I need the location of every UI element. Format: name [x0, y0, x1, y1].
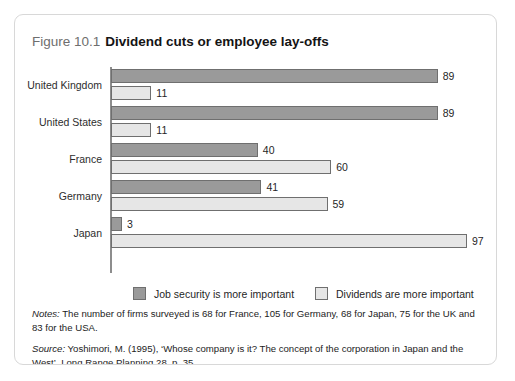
bar-chart: United Kingdom8911United States8911Franc… [15, 61, 497, 283]
category-label: United Kingdom [14, 79, 102, 91]
notes-text: The number of firms surveyed is 68 for F… [32, 308, 475, 333]
legend-swatch-icon [133, 287, 146, 300]
legend-label: Dividends are more important [336, 288, 474, 300]
footnotes: Notes: The number of firms surveyed is 6… [32, 307, 484, 365]
category-label: Japan [14, 227, 102, 239]
notes-label: Notes: [32, 308, 60, 319]
legend-label: Job security is more important [154, 288, 294, 300]
bar-value-label: 11 [156, 123, 167, 137]
bar-job-security [111, 217, 122, 231]
bar-job-security [111, 69, 438, 83]
source-label: Source: [32, 343, 65, 354]
bar-group: United Kingdom8911 [15, 69, 497, 100]
bar-group: United States8911 [15, 106, 497, 137]
bar-dividends [111, 123, 151, 137]
bar-value-label: 40 [263, 143, 275, 157]
category-label: France [14, 153, 102, 165]
bar-value-label: 3 [127, 217, 133, 231]
bar-value-label: 89 [443, 69, 455, 83]
source-line: Source: Yoshimori, M. (1995), ‘Whose com… [32, 342, 484, 365]
bar-job-security [111, 180, 261, 194]
chart-legend: Job security is more importantDividends … [15, 284, 497, 306]
figure-card: Figure 10.1Dividend cuts or employee lay… [14, 14, 497, 365]
bar-value-label: 60 [336, 160, 348, 174]
category-label: Germany [14, 190, 102, 202]
bar-value-label: 11 [156, 86, 167, 100]
bar-group: Japan397 [15, 217, 497, 248]
source-text: Yoshimori, M. (1995), ‘Whose company is … [32, 343, 463, 365]
bar-value-label: 59 [333, 197, 345, 211]
bar-group: Germany4159 [15, 180, 497, 211]
figure-number: Figure 10.1 [32, 34, 100, 49]
bar-value-label: 97 [472, 234, 484, 248]
notes-line: Notes: The number of firms surveyed is 6… [32, 307, 484, 334]
bar-value-label: 89 [443, 106, 455, 120]
bar-job-security [111, 143, 258, 157]
bar-job-security [111, 106, 438, 120]
bar-dividends [111, 86, 151, 100]
figure-title-text: Dividend cuts or employee lay-offs [105, 34, 329, 49]
bar-dividends [111, 234, 467, 248]
bar-dividends [111, 197, 328, 211]
bar-dividends [111, 160, 331, 174]
legend-item[interactable]: Dividends are more important [315, 287, 474, 300]
figure-title: Figure 10.1Dividend cuts or employee lay… [32, 34, 329, 49]
bar-value-label: 41 [266, 180, 278, 194]
category-label: United States [14, 116, 102, 128]
bar-group: France4060 [15, 143, 497, 174]
legend-item[interactable]: Job security is more important [133, 287, 294, 300]
legend-swatch-icon [315, 287, 328, 300]
